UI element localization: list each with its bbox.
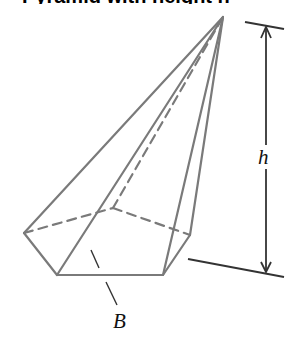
base-leader-line [91, 250, 117, 305]
base-label: B [113, 311, 126, 331]
height-label: h [257, 145, 270, 169]
pyramid-diagram [0, 0, 303, 343]
visible-edges [24, 17, 223, 275]
